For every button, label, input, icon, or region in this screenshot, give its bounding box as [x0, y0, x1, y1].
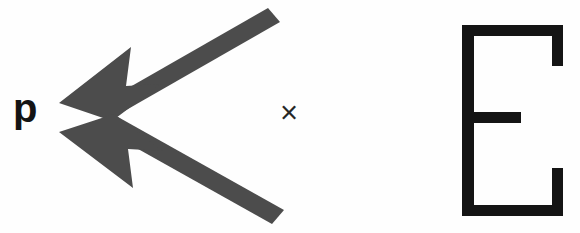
letter-e-middle-arm [462, 112, 521, 123]
figure-container: p × [0, 0, 580, 233]
letter-e-bottom-right-stub [552, 168, 563, 216]
times-symbol: × [272, 96, 306, 130]
momentum-label: p [13, 88, 37, 128]
letter-e-top-right-stub [552, 25, 563, 66]
letter-e-bottom-arm [462, 205, 563, 216]
letter-e-top-arm [462, 25, 563, 36]
